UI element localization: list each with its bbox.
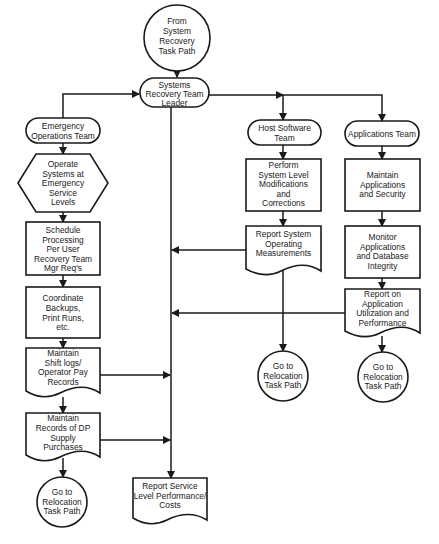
node-goto-host: Go to Relocation Task Path (258, 351, 308, 401)
node-label: Report Service (142, 481, 198, 491)
node-label: Modifications (259, 179, 308, 189)
node-label: Go to (52, 487, 73, 497)
node-label: From (167, 16, 187, 26)
node-label: Go to (373, 362, 394, 372)
node-report-service: Report Service Level Performance/ Costs (133, 478, 207, 524)
node-perform: Perform System Level Modifications and C… (246, 159, 321, 211)
node-label: Leader (161, 98, 187, 108)
node-label: Report on (364, 289, 401, 299)
node-label: Operate (48, 159, 79, 169)
node-label: Levels (51, 197, 75, 207)
node-label: Utilization and (356, 308, 409, 318)
node-maintain-apps: Maintain Applications and Security (345, 159, 420, 211)
node-leader: Systems Recovery Team Leader (140, 78, 209, 108)
node-label: Per User (46, 244, 79, 254)
node-label: Team (274, 133, 295, 143)
node-label: System (163, 26, 191, 36)
node-operate: Operate Systems at Emergency Service Lev… (18, 154, 108, 212)
node-label: Operations Team (31, 131, 95, 141)
node-label: Records (47, 377, 78, 387)
node-label: Emergency (42, 121, 85, 131)
node-label: Corrections (262, 198, 305, 208)
node-label: Task Path (44, 506, 81, 516)
node-label: Performance (359, 318, 407, 328)
node-label: etc. (56, 322, 70, 332)
node-label: Purchases (43, 442, 83, 452)
node-label: Recovery (159, 36, 195, 46)
node-report-app: Report on Application Utilization and Pe… (345, 289, 420, 337)
node-label: Measurements (256, 248, 311, 258)
node-report-system: Report System Operating Measurements (246, 226, 321, 275)
node-label: Coordinate (43, 293, 84, 303)
node-label: Records of DP (36, 423, 91, 433)
node-label: Task Path (265, 380, 302, 390)
node-monitor: Monitor Applications and Database Integr… (345, 226, 420, 278)
node-label: Host Software (258, 123, 311, 133)
node-shift-logs: Maintain Shift logs/ Operator Pay Record… (26, 348, 100, 397)
node-label: and Security (359, 189, 406, 199)
node-label: Monitor (369, 232, 397, 242)
node-goto-app: Go to Relocation Task Path (358, 352, 408, 402)
node-dp-supply: Maintain Records of DP Supply Purchases (26, 413, 100, 461)
node-label: Emergency (42, 178, 85, 188)
node-label: Task Path (159, 46, 196, 56)
node-label: Go to (273, 361, 294, 371)
node-label: and Database (356, 251, 408, 261)
node-label: Integrity (368, 261, 399, 271)
node-apps-team: Applications Team (345, 121, 419, 146)
node-schedule: Schedule Processing Per User Recovery Te… (26, 222, 100, 275)
node-label: Maintain (47, 413, 79, 423)
node-label: Maintain (47, 348, 79, 358)
node-label: Task Path (365, 381, 402, 391)
node-start: From System Recovery Task Path (144, 5, 210, 71)
node-label: Maintain (367, 170, 399, 180)
edge-leader-apps (283, 95, 382, 121)
node-label: Schedule (46, 225, 81, 235)
node-label: Applications Team (348, 129, 416, 139)
connectors (63, 71, 382, 478)
node-host-team: Host Software Team (248, 120, 321, 145)
node-label: Backups, (46, 303, 80, 313)
node-label: Report System (256, 229, 311, 239)
flowchart: From System Recovery Task Path Systems R… (0, 0, 439, 544)
node-goto-left: Go to Relocation Task Path (37, 477, 87, 527)
node-emergency-team: Emergency Operations Team (26, 118, 100, 143)
node-label: Mgr Req's (44, 263, 82, 273)
node-label: Costs (159, 500, 180, 510)
node-label: Operator Pay (38, 367, 89, 377)
node-label: Perform (269, 160, 299, 170)
node-coordinate: Coordinate Backups, Print Runs, etc. (26, 287, 100, 338)
edge-emergency-leader (63, 94, 139, 118)
